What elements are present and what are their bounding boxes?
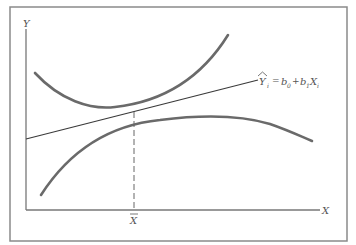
- equation-b0-subscript: 0: [287, 82, 291, 89]
- equation-x-subscript: i: [317, 82, 319, 89]
- equation-y-hat: Y: [259, 76, 267, 87]
- x-mean-label: X: [129, 215, 138, 226]
- figure-frame: [10, 7, 347, 241]
- regression-equation: Y i = b 0 + b 1 X i: [258, 72, 319, 89]
- equation-y-subscript: i: [267, 82, 269, 89]
- equation-plus: +: [292, 76, 300, 86]
- confidence-band-diagram: Y X X Y i = b 0 + b 1 X i: [0, 0, 356, 245]
- equation-equals: =: [272, 76, 280, 86]
- lower-confidence-curve: [41, 117, 312, 195]
- upper-confidence-curve: [35, 35, 228, 108]
- x-axis-label: X: [321, 205, 330, 216]
- regression-line: [26, 80, 258, 139]
- y-axis-label: Y: [23, 18, 31, 29]
